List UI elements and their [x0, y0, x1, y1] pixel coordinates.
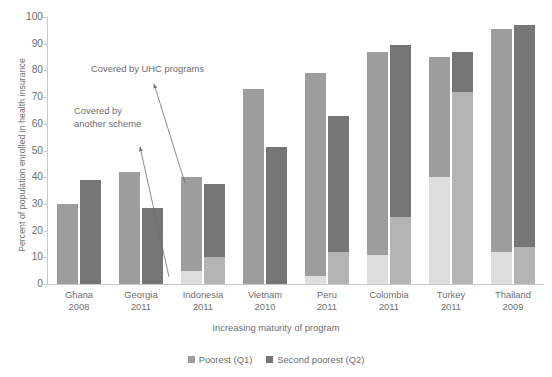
category-year: 2009: [482, 301, 544, 313]
bar-chart: Percent of population enrolled in health…: [0, 0, 552, 377]
legend-item[interactable]: Poorest (Q1): [188, 354, 253, 365]
y-axis-tick-label: 30: [3, 199, 43, 209]
x-axis-category-label: Turkey2011: [420, 289, 482, 313]
annotation-another-scheme: Covered by another scheme: [74, 105, 141, 130]
bar-group: [420, 17, 482, 284]
bar-segment-uhc: [367, 52, 388, 255]
bar-segment-uhc: [57, 204, 78, 284]
bar: [204, 184, 225, 284]
category-year: 2010: [234, 301, 296, 313]
bar-group: [358, 17, 420, 284]
bar-group: [234, 17, 296, 284]
x-axis-category-label: Indonesia2011: [172, 289, 234, 313]
category-name: Thailand: [495, 289, 531, 300]
bar-segment-uhc: [491, 29, 512, 252]
bar: [243, 89, 264, 284]
bar-group: [296, 17, 358, 284]
bar-segment-uhc: [305, 73, 326, 276]
bar-segment-uhc: [429, 57, 450, 177]
bar: [119, 172, 140, 284]
y-axis-tick-label: 40: [3, 172, 43, 182]
bar-segment-another-scheme: [367, 255, 388, 284]
bar-segment-uhc: [119, 172, 140, 284]
bar-segment-uhc: [514, 25, 535, 247]
x-axis-title: Increasing maturity of program: [0, 322, 552, 333]
bar: [57, 204, 78, 284]
bar-segment-another-scheme: [491, 252, 512, 284]
y-axis-tick-mark: [44, 97, 47, 98]
legend-label: Poorest (Q1): [199, 354, 253, 365]
y-axis-tick-mark: [44, 124, 47, 125]
category-name: Georgia: [124, 289, 157, 300]
legend-swatch-icon: [266, 356, 273, 363]
x-axis-category-label: Colombia2011: [358, 289, 420, 313]
category-name: Colombia: [369, 289, 409, 300]
bar-segment-another-scheme: [204, 257, 225, 284]
y-axis-tick-mark: [44, 284, 47, 285]
bar: [266, 147, 287, 285]
bar-group: [482, 17, 544, 284]
x-axis-category-label: Vietnam2010: [234, 289, 296, 313]
bar: [80, 180, 101, 284]
bar-segment-uhc: [243, 89, 264, 284]
y-axis-tick-mark: [44, 231, 47, 232]
y-axis-tick-label: 0: [3, 279, 43, 289]
bar-segment-uhc: [452, 52, 473, 92]
category-name: Vietnam: [248, 289, 282, 300]
y-axis-tick-mark: [44, 257, 47, 258]
bar: [514, 25, 535, 284]
y-axis-tick-mark: [44, 204, 47, 205]
bar-group: [110, 17, 172, 284]
y-axis-tick-mark: [44, 70, 47, 71]
bar-segment-another-scheme: [390, 217, 411, 284]
bar-segment-another-scheme: [429, 177, 450, 284]
bar: [367, 52, 388, 284]
bar-segment-another-scheme: [305, 276, 326, 284]
bar-groups: [48, 17, 544, 284]
y-axis-tick-label: 90: [3, 39, 43, 49]
bar-segment-uhc: [328, 116, 349, 252]
y-axis-tick-mark: [44, 17, 47, 18]
bar: [305, 73, 326, 284]
bar-group: [48, 17, 110, 284]
annotation-uhc-programs: Covered by UHC programs: [91, 63, 204, 76]
bar-segment-uhc: [142, 208, 163, 284]
plot-area: 1009080706050403020100: [47, 17, 544, 285]
bar-segment-another-scheme: [452, 92, 473, 284]
y-axis-tick-label: 70: [3, 92, 43, 102]
legend-item[interactable]: Second poorest (Q2): [266, 354, 364, 365]
y-axis-tick-label: 60: [3, 119, 43, 129]
bar: [181, 177, 202, 284]
x-axis-category-labels: Ghana2008Georgia2011Indonesia2011Vietnam…: [48, 289, 544, 313]
category-year: 2011: [110, 301, 172, 313]
bar: [491, 29, 512, 284]
category-year: 2008: [48, 301, 110, 313]
x-axis-category-label: Peru2011: [296, 289, 358, 313]
category-year: 2011: [358, 301, 420, 313]
y-axis-tick-mark: [44, 44, 47, 45]
x-axis-line: [47, 284, 544, 285]
category-year: 2011: [172, 301, 234, 313]
bar: [452, 52, 473, 284]
category-year: 2011: [296, 301, 358, 313]
category-name: Peru: [317, 289, 337, 300]
legend: Poorest (Q1)Second poorest (Q2): [0, 354, 552, 365]
bar: [328, 116, 349, 284]
bar-segment-uhc: [181, 177, 202, 270]
bar-segment-another-scheme: [181, 271, 202, 284]
bar-segment-another-scheme: [514, 247, 535, 284]
y-axis-tick-label: 20: [3, 226, 43, 236]
category-name: Turkey: [437, 289, 465, 300]
y-axis-tick-mark: [44, 151, 47, 152]
category-year: 2011: [420, 301, 482, 313]
bar: [429, 57, 450, 284]
bar-segment-uhc: [390, 45, 411, 217]
y-axis-tick-label: 10: [3, 252, 43, 262]
bar-group: [172, 17, 234, 284]
y-axis-tick-label: 80: [3, 65, 43, 75]
bar-segment-uhc: [80, 180, 101, 284]
legend-swatch-icon: [188, 356, 195, 363]
bar-segment-uhc: [204, 184, 225, 257]
y-axis-tick-label: 100: [3, 12, 43, 22]
x-axis-category-label: Thailand2009: [482, 289, 544, 313]
